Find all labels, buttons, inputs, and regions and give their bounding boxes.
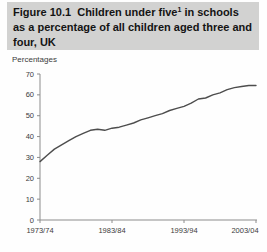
y-tick-label: 60	[26, 90, 34, 99]
y-tick-label: 70	[26, 70, 34, 79]
x-tick-label: 1993/94	[170, 226, 197, 235]
y-tick-label: 50	[26, 111, 34, 120]
y-tick-label: 0	[30, 216, 34, 225]
line-chart-svg: 0102030405060701973/741983/841993/942003…	[0, 0, 267, 252]
x-tick-label: 1983/84	[98, 226, 125, 235]
data-series-line	[40, 86, 256, 162]
y-tick-label: 40	[26, 132, 34, 141]
figure-panel: Figure 10.1 Children under five1 in scho…	[0, 0, 267, 252]
y-tick-label: 10	[26, 195, 34, 204]
x-tick-label: 2003/04	[231, 226, 258, 235]
y-tick-label: 30	[26, 153, 34, 162]
x-tick-label: 1973/74	[26, 226, 53, 235]
y-tick-label: 20	[26, 174, 34, 183]
